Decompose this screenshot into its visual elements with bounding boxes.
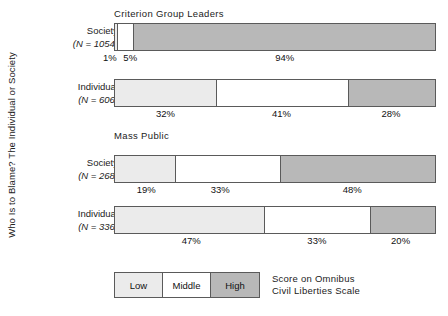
stacked-bar-leaders-society[interactable] xyxy=(114,23,436,51)
stacked-bar-mass-individual[interactable] xyxy=(114,206,436,234)
bar-value-low: 19% xyxy=(137,184,156,195)
row-label-leaders-individual: Individual (N = 606) xyxy=(34,81,118,106)
legend-caption: Score on Omnibus Civil Liberties Scale xyxy=(272,273,360,298)
stacked-bar-mass-society[interactable] xyxy=(114,155,436,183)
bar-segment-low[interactable] xyxy=(115,207,265,233)
legend-item-low[interactable]: Low xyxy=(115,273,163,297)
bar-segment-high[interactable] xyxy=(281,156,435,182)
bar-value-low: 1% xyxy=(103,52,117,63)
bar-value-labels-mass-individual: 47% 33% 20% xyxy=(114,235,436,249)
row-label-n: (N = 606) xyxy=(34,94,118,107)
row-label-n: (N = 336) xyxy=(34,221,118,234)
bar-value-low: 32% xyxy=(156,108,175,119)
row-label-text: Individual xyxy=(78,81,118,92)
bar-value-low: 47% xyxy=(182,235,201,246)
bar-row-leaders-individual: Individual (N = 606) 32% 41% 28% xyxy=(22,78,448,124)
row-label-n: (N = 268) xyxy=(34,170,118,183)
group-title-mass-public: Mass Public xyxy=(114,130,169,141)
bar-value-middle: 5% xyxy=(123,52,137,63)
legend-caption-line-1: Score on Omnibus xyxy=(272,273,360,286)
bar-segment-high[interactable] xyxy=(349,80,435,106)
bar-value-labels-mass-society: 19% 33% 48% xyxy=(114,184,436,198)
bar-segment-high[interactable] xyxy=(371,207,435,233)
legend-caption-line-2: Civil Liberties Scale xyxy=(272,285,360,298)
legend-item-high[interactable]: High xyxy=(211,273,259,297)
group-title-criterion-group-leaders: Criterion Group Leaders xyxy=(114,8,224,19)
row-label-text: Individual xyxy=(78,208,118,219)
chart-plot-area: Criterion Group Leaders Society (N = 105… xyxy=(22,0,448,316)
bar-value-middle: 41% xyxy=(272,108,291,119)
legend-item-middle[interactable]: Middle xyxy=(163,273,211,297)
row-label-mass-society: Society (N = 268) xyxy=(34,157,118,182)
bar-row-mass-society: Society (N = 268) 19% 33% 48% xyxy=(22,154,448,200)
legend-swatch-row: Low Middle High xyxy=(114,272,260,298)
chart-legend: Low Middle High Score on Omnibus Civil L… xyxy=(114,272,360,298)
bar-value-high: 20% xyxy=(391,235,410,246)
bar-segment-low[interactable] xyxy=(115,156,176,182)
row-label-n: (N = 1054) xyxy=(34,38,118,51)
bar-segment-middle[interactable] xyxy=(176,156,282,182)
bar-value-high: 48% xyxy=(343,184,362,195)
bar-segment-middle[interactable] xyxy=(217,80,348,106)
bar-row-leaders-society: Society (N = 1054) 1% 5% 94% xyxy=(22,22,448,68)
y-axis-label: Who Is to Blame? The Individual or Socie… xyxy=(6,52,17,238)
bar-value-labels-leaders-individual: 32% 41% 28% xyxy=(114,108,436,122)
bar-value-middle: 33% xyxy=(211,184,230,195)
bar-value-high: 94% xyxy=(275,52,294,63)
bar-value-high: 28% xyxy=(381,108,400,119)
bar-value-labels-leaders-society: 1% 5% 94% xyxy=(114,52,436,66)
bar-segment-middle[interactable] xyxy=(118,24,134,50)
stacked-bar-leaders-individual[interactable] xyxy=(114,79,436,107)
bar-segment-low[interactable] xyxy=(115,80,217,106)
row-label-leaders-society: Society (N = 1054) xyxy=(34,25,118,50)
bar-value-middle: 33% xyxy=(307,235,326,246)
bar-segment-high[interactable] xyxy=(134,24,435,50)
bar-row-mass-individual: Individual (N = 336) 47% 33% 20% xyxy=(22,205,448,251)
y-axis-label-container: Who Is to Blame? The Individual or Socie… xyxy=(0,0,22,290)
bar-segment-middle[interactable] xyxy=(265,207,371,233)
row-label-mass-individual: Individual (N = 336) xyxy=(34,208,118,233)
